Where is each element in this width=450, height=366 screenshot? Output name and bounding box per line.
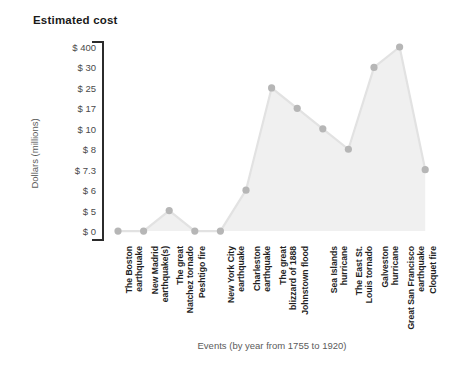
plot-area: The Boston earthquake: 0New Madrid earth…	[104, 36, 440, 246]
chart-area-fill	[118, 47, 425, 231]
data-point-marker[interactable]: New Madrid earthquake(s): 0	[140, 227, 147, 234]
y-tick-label: $ 17	[28, 103, 96, 114]
data-point-marker[interactable]: Great San Francisco earthquake: 400	[396, 43, 403, 50]
x-tick-label: Sea Islandshurricane	[330, 246, 349, 332]
x-tick-label: The Bostonearthquake	[125, 246, 144, 332]
y-tick-label: $ 6	[28, 185, 96, 196]
x-tick-label: Galvestonhurricane	[381, 246, 400, 332]
data-point-marker[interactable]: The great Natchez tornado: 5	[166, 207, 173, 214]
y-tick-label: $ 7.3	[28, 164, 96, 175]
x-tick-label: Cloquet fire	[429, 246, 439, 332]
y-tick-label: $ 8	[28, 144, 96, 155]
y-tick-label: $ 25	[28, 82, 96, 93]
x-axis-title: Events (by year from 1755 to 1920)	[104, 340, 440, 351]
data-point-marker[interactable]: Peshtigo fire: 0	[191, 227, 198, 234]
x-tick-label: Johnstown flood	[301, 246, 311, 332]
chart-title: Estimated cost	[33, 14, 118, 26]
x-tick-label: The greatNatchez tornado	[176, 246, 195, 332]
data-point-marker[interactable]: Galveston hurricane: 30	[370, 64, 377, 71]
chart-container: Estimated cost Dollars (millions) $ 400$…	[0, 0, 450, 366]
data-point-marker[interactable]: Johnstown flood: 17	[294, 105, 301, 112]
data-point-marker[interactable]: Cloquet fire: 7.3	[422, 166, 429, 173]
data-point-marker[interactable]: The East St. Louis tornado: 8	[345, 146, 352, 153]
x-tick-label: New Madridearthquake(s)	[151, 246, 170, 332]
x-axis-tick-labels: The BostonearthquakeNew Madridearthquake…	[104, 246, 440, 334]
x-axis-origin-tick	[92, 239, 104, 241]
data-point-marker[interactable]: The Boston earthquake: 0	[114, 227, 121, 234]
x-tick-label: Great San Franciscoearthquake	[407, 246, 426, 332]
x-tick-label: New York Cityearthquake	[227, 246, 246, 332]
x-tick-label: The East St.Louis tornado	[355, 246, 374, 332]
x-tick-label: Peshtigo fire	[198, 246, 208, 332]
x-tick-label: The greatblizzard of 1888	[279, 246, 298, 332]
y-tick-label: $ 30	[28, 62, 96, 73]
data-point-marker[interactable]: Sea Islands hurricane: 10	[319, 125, 326, 132]
y-tick-label: $ 400	[28, 42, 96, 53]
y-axis-tick-labels: $ 400$ 30$ 25$ 17$ 10$ 8$ 7.3$ 6$ 5$ 0	[28, 36, 96, 251]
x-tick-label: Charlestonearthquake	[253, 246, 272, 332]
y-tick-label: $ 5	[28, 205, 96, 216]
chart-plot-svg: The Boston earthquake: 0New Madrid earth…	[104, 36, 440, 246]
data-point-marker[interactable]: New York City earthquake: 0	[217, 227, 224, 234]
y-tick-label: $ 0	[28, 226, 96, 237]
data-point-marker[interactable]: The great blizzard of 1888: 25	[268, 84, 275, 91]
data-point-marker[interactable]: Charleston earthquake: 6	[242, 187, 249, 194]
y-tick-label: $ 10	[28, 123, 96, 134]
